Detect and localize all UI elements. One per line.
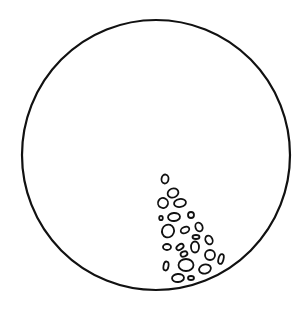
- pebble-shape: [163, 244, 171, 250]
- pebble-shape: [180, 250, 188, 257]
- pebble-shape: [188, 276, 194, 280]
- drawing-canvas: Circle outline containing a cluster of s…: [0, 0, 306, 313]
- pebble-shape: [204, 234, 214, 245]
- pebble-shape: [205, 250, 215, 260]
- pebble-shape: [193, 235, 200, 239]
- pebble-shape: [163, 261, 169, 271]
- pebble-shape: [180, 225, 191, 234]
- pebble-cluster: [156, 174, 225, 283]
- pebble-shape: [156, 196, 170, 210]
- pebble-shape: [179, 259, 194, 271]
- pebble-shape: [168, 212, 181, 221]
- pebble-shape: [159, 216, 163, 220]
- pebble-shape: [166, 187, 179, 199]
- pebble-shape: [160, 223, 176, 239]
- pebble-shape: [217, 254, 224, 265]
- pebble-shape: [198, 263, 212, 275]
- pebble-shape: [172, 273, 185, 282]
- pebble-shape: [188, 212, 194, 218]
- pebble-shape: [173, 198, 186, 208]
- pebble-shape: [191, 242, 199, 253]
- pebble-shape: [194, 222, 204, 233]
- outer-circle: [22, 20, 290, 290]
- pebble-shape: [161, 174, 169, 184]
- pebble-shape: [175, 243, 184, 252]
- circle-with-pebbles-figure: [0, 0, 306, 313]
